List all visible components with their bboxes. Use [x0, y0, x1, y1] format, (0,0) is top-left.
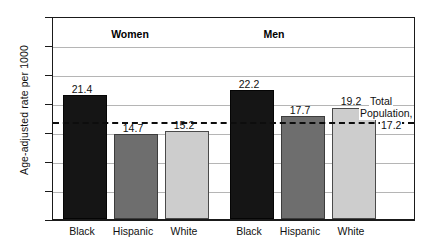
bar-women-white[interactable] — [165, 131, 209, 219]
bar-men-hispanic[interactable] — [281, 116, 325, 219]
x-label-men-white: White — [321, 226, 381, 237]
y-tick-mark-20 — [45, 104, 52, 105]
bar-value-women-black: 21.4 — [62, 84, 102, 95]
bar-value-women-white: 15.2 — [164, 120, 204, 131]
y-tick-mark-15 — [45, 133, 52, 134]
y-tick-mark-0 — [45, 220, 52, 221]
y-tick-mark-5 — [45, 191, 52, 192]
total-population-value: 17.2 — [380, 120, 402, 132]
gridline-30 — [53, 47, 414, 48]
total-population-reference-line — [53, 122, 414, 124]
bar-men-black[interactable] — [230, 90, 274, 219]
group-heading-men: Men — [222, 28, 326, 40]
bar-value-men-black: 22.2 — [229, 79, 269, 90]
bar-value-men-white: 19.2 — [331, 96, 371, 107]
chart-figure: Age-adjusted rate per 1000 35 30 25 20 1… — [0, 0, 429, 248]
bar-men-white[interactable] — [332, 108, 376, 219]
bar-women-hispanic[interactable] — [114, 134, 158, 219]
y-tick-mark-25 — [45, 75, 52, 76]
y-tick-mark-10 — [45, 162, 52, 163]
y-tick-mark-35 — [45, 17, 52, 18]
total-population-label-line1: Total — [369, 96, 393, 108]
bar-value-men-hispanic: 17.7 — [280, 105, 320, 116]
group-heading-women: Women — [78, 28, 182, 40]
x-label-women-white: White — [154, 226, 214, 237]
gridline-25 — [53, 76, 414, 77]
bar-value-women-hispanic: 14.7 — [113, 123, 153, 134]
total-population-label-line2: Population, — [359, 108, 414, 120]
bar-women-black[interactable] — [63, 95, 107, 219]
y-tick-mark-30 — [45, 46, 52, 47]
y-axis-title: Age-adjusted rate per 1000 — [18, 20, 30, 200]
